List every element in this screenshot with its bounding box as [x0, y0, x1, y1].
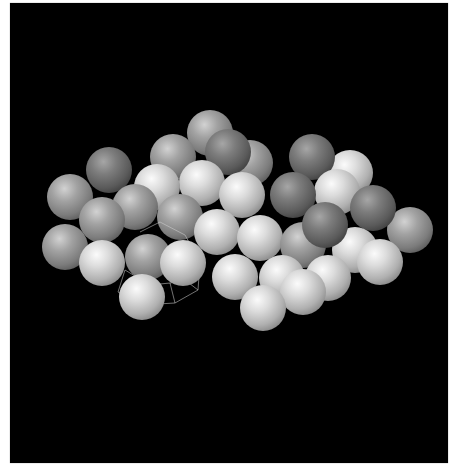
sphere-mid [79, 197, 125, 243]
sphere-light [240, 285, 286, 331]
sphere-dark [302, 202, 348, 248]
sphere-dark [350, 185, 396, 231]
sphere-light [119, 274, 165, 320]
sphere-light [160, 240, 206, 286]
sphere-light [237, 215, 283, 261]
sphere-light [280, 269, 326, 315]
sphere-light [79, 240, 125, 286]
sphere-light [357, 239, 403, 285]
render-viewport [10, 3, 448, 463]
